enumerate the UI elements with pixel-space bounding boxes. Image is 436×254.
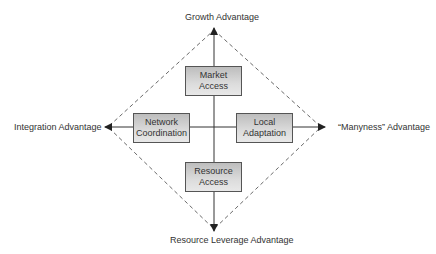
box-network-coordination: Network Coordination — [133, 113, 190, 143]
axis-label-right: “Manyness” Advantage — [338, 122, 430, 132]
box-label-line2: Adaptation — [243, 128, 286, 139]
axis-label-left: Integration Advantage — [14, 122, 102, 132]
box-label-line1: Market — [200, 70, 228, 81]
box-market-access: Market Access — [185, 66, 242, 96]
box-label-line1: Resource — [194, 166, 233, 177]
box-local-adaptation: Local Adaptation — [236, 113, 293, 143]
box-label-line2: Access — [199, 81, 228, 92]
axis-label-bottom: Resource Leverage Advantage — [170, 235, 294, 245]
box-label-line2: Access — [199, 177, 228, 188]
box-resource-access: Resource Access — [185, 162, 242, 192]
box-label-line1: Local — [254, 117, 276, 128]
axis-label-top: Growth Advantage — [185, 12, 259, 22]
box-label-line2: Coordination — [136, 128, 187, 139]
box-label-line1: Network — [145, 117, 178, 128]
